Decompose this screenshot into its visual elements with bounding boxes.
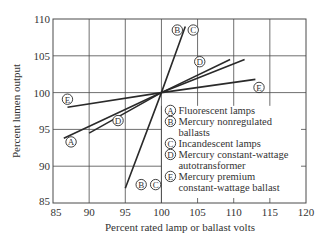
marker-letter: C (190, 25, 196, 35)
legend-text: Fluorescent lamps (178, 105, 255, 116)
legend-text: ballasts (178, 127, 210, 138)
marker-letter: A (167, 106, 174, 116)
legend-marker: A (165, 105, 175, 116)
legend-marker: E (165, 171, 175, 182)
marker-letter: A (68, 137, 75, 147)
marker-letter: D (115, 116, 122, 126)
legend-text: constant-wattage ballast (178, 182, 279, 193)
legend-item-B: BMercury nonregulatedballasts (165, 116, 273, 138)
y-tick-label: 95 (39, 123, 51, 135)
y-tick-label: 105 (34, 50, 51, 62)
legend-text: Mercury premium (178, 171, 255, 182)
legend-item-A: AFluorescent lamps (165, 105, 255, 116)
x-tick-label: 85 (51, 206, 63, 218)
marker-letter: C (167, 139, 173, 149)
x-tick-label: 120 (298, 206, 315, 218)
legend-text: Mercury nonregulated (178, 116, 272, 127)
legend-item-E: EMercury premiumconstant-wattage ballast (165, 171, 279, 193)
x-tick-label: 100 (153, 206, 170, 218)
chart: 859095100105110115120859095100105110 ABB… (0, 0, 328, 237)
x-axis-label: Percent rated lamp or ballast volts (105, 221, 255, 233)
marker-top-D: D (195, 56, 205, 67)
marker-letter: E (168, 172, 174, 182)
marker-letter: E (256, 83, 262, 93)
y-tick-label: 100 (34, 87, 51, 99)
marker-letter: D (167, 150, 174, 160)
marker-D: D (113, 115, 123, 125)
x-tick-label: 110 (226, 206, 243, 218)
marker-top-B: B (172, 25, 182, 36)
legend: AFluorescent lampsBMercury nonregulatedb… (165, 105, 288, 193)
marker-E: E (62, 94, 72, 105)
y-tick-label: 85 (39, 195, 51, 207)
legend-item-D: DMercury constant-wattageautotransformer (165, 149, 288, 171)
marker-letter: B (138, 180, 144, 190)
y-tick-label: 90 (39, 160, 51, 172)
y-axis-label: Percent lumen output (10, 64, 22, 158)
legend-text: autotransformer (178, 160, 246, 171)
marker-letter: B (167, 117, 173, 127)
marker-B: B (136, 179, 146, 189)
x-tick-label: 115 (262, 206, 279, 218)
y-tick-label: 110 (34, 13, 51, 25)
x-tick-label: 105 (189, 206, 206, 218)
marker-top-E: E (254, 82, 264, 93)
legend-text: Incandescent lamps (178, 138, 261, 149)
marker-letter: C (153, 180, 159, 190)
marker-C: C (150, 179, 160, 189)
legend-item-C: CIncandescent lamps (165, 138, 261, 149)
legend-text: Mercury constant-wattage (178, 149, 288, 160)
marker-A: A (66, 137, 76, 148)
marker-letter: B (174, 25, 180, 35)
marker-letter: E (65, 95, 71, 105)
marker-letter: D (196, 57, 203, 67)
marker-top-C: C (188, 25, 198, 36)
x-tick-label: 95 (120, 206, 132, 218)
x-tick-label: 90 (84, 206, 96, 218)
legend-marker: D (165, 149, 175, 160)
legend-marker: C (165, 138, 175, 149)
legend-marker: B (165, 116, 175, 127)
